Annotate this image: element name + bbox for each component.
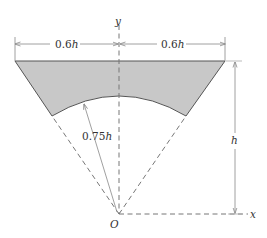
right-radial-dashed-line (119, 116, 186, 214)
right-width-label: 0.6h (161, 38, 184, 50)
right-width-label-number: 0.6 (161, 38, 178, 50)
radius-label-number: 0.75 (82, 130, 105, 142)
origin-label: O (110, 218, 119, 230)
radius-leader-line (84, 104, 117, 212)
y-axis-label: y (114, 15, 122, 27)
left-width-label: 0.6h (55, 38, 78, 50)
left-width-label-variable: h (72, 38, 79, 50)
area-diagram: 0.6h 0.6h 0.75h h y x O (0, 0, 267, 238)
radius-label: 0.75h (82, 130, 112, 142)
x-axis-label: x (250, 208, 256, 220)
height-label: h (231, 134, 238, 146)
right-width-label-variable: h (178, 38, 185, 50)
left-width-label-number: 0.6 (55, 38, 72, 50)
radius-label-variable: h (105, 130, 112, 142)
shaded-area (15, 61, 225, 116)
